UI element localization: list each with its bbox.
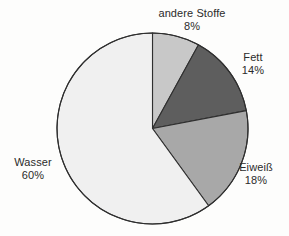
slice-label-fett-percent: 14%: [233, 64, 273, 77]
slice-label-wasser-name: Wasser: [6, 156, 60, 169]
slice-label-eiweiss: Eiweiß 18%: [232, 161, 280, 186]
pie-slice-group: [57, 33, 248, 224]
slice-label-andere-stoffe-name: andere Stoffe: [147, 7, 237, 20]
slice-label-fett: Fett 14%: [233, 51, 273, 76]
slice-label-wasser: Wasser 60%: [6, 156, 60, 181]
slice-label-andere-stoffe-percent: 8%: [147, 20, 237, 33]
pie-chart-svg: [0, 0, 289, 236]
slice-label-eiweiss-percent: 18%: [232, 174, 280, 187]
pie-chart-figure: andere Stoffe 8% Fett 14% Eiweiß 18% Was…: [0, 0, 289, 236]
slice-label-wasser-percent: 60%: [6, 169, 60, 182]
slice-label-andere-stoffe: andere Stoffe 8%: [147, 7, 237, 32]
slice-label-fett-name: Fett: [233, 51, 273, 64]
slice-label-eiweiss-name: Eiweiß: [232, 161, 280, 174]
